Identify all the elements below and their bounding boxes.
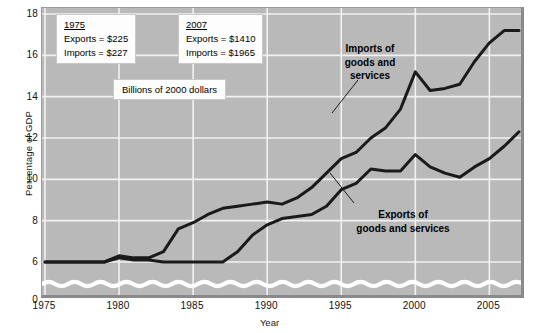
series-label-imports: Imports ofgoods andservices — [320, 42, 420, 83]
x-tick-label: 1995 — [329, 300, 352, 311]
x-tick-label: 1985 — [181, 300, 204, 311]
units-note: Billions of 2000 dollars — [113, 79, 226, 100]
y-tick-label: 12 — [4, 132, 38, 143]
callout-1975: 1975 Exports = $225 Imports = $227 — [56, 14, 136, 64]
chart-container: Percentage of GDP 0681012141618 19751980… — [0, 0, 539, 333]
x-tick-label: 1990 — [255, 300, 278, 311]
series-label-line: Imports of — [320, 42, 420, 56]
callout-1975-exports: Exports = $225 — [64, 32, 128, 45]
series-label-line: goods and services — [348, 222, 458, 236]
y-tick-label: 16 — [4, 49, 38, 60]
x-tick-label: 2000 — [403, 300, 426, 311]
callout-2007-title: 2007 — [186, 18, 255, 31]
callout-2007: 2007 Exports = $1410 Imports = $1965 — [178, 14, 263, 64]
callout-1975-imports: Imports = $227 — [64, 46, 128, 59]
axis-break-squiggle — [42, 282, 522, 286]
x-tick-label: 1980 — [107, 300, 130, 311]
callout-1975-title: 1975 — [64, 18, 128, 31]
y-tick-label: 18 — [4, 8, 38, 19]
series-label-line: Exports of — [348, 208, 458, 222]
series-line-exports — [45, 132, 519, 262]
x-tick-label: 2005 — [477, 300, 500, 311]
series-label-line: goods and — [320, 56, 420, 70]
callout-2007-imports: Imports = $1965 — [186, 46, 255, 59]
y-tick-label: 10 — [4, 173, 38, 184]
x-axis-title: Year — [0, 317, 539, 328]
x-axis-tick-labels: 1975198019851990199520002005 — [0, 300, 539, 316]
y-tick-label: 6 — [4, 256, 38, 267]
series-label-exports: Exports ofgoods and services — [348, 208, 458, 235]
series-label-line: services — [320, 69, 420, 83]
y-tick-label: 14 — [4, 90, 38, 101]
y-tick-label: 8 — [4, 214, 38, 225]
x-tick-label: 1975 — [32, 300, 55, 311]
callout-2007-exports: Exports = $1410 — [186, 32, 255, 45]
y-axis-tick-labels: 0681012141618 — [0, 0, 38, 333]
